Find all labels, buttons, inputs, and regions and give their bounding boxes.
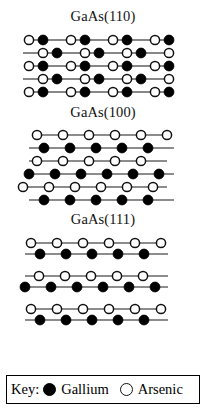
arsenic-atom — [108, 61, 117, 70]
gallium-atom — [117, 195, 127, 205]
lattice-row — [13, 33, 193, 47]
gallium-atom — [52, 48, 62, 58]
gallium-atom — [164, 35, 174, 45]
gallium-atom — [91, 143, 101, 153]
gallium-atom — [35, 249, 45, 259]
lattice-row — [13, 247, 193, 261]
lattice-row — [13, 141, 193, 155]
gallium-atom — [150, 282, 160, 292]
gallium-atom — [91, 195, 101, 205]
arsenic-atom — [110, 156, 119, 165]
arsenic-atom — [66, 61, 75, 70]
arsenic-atom — [96, 182, 105, 191]
gallium-atom — [136, 48, 146, 58]
arsenic-atom — [122, 74, 131, 83]
panel-gaas-100: GaAs(100) — [0, 105, 206, 208]
arsenic-atom — [136, 130, 145, 139]
panel-gaas-110: GaAs(110) — [0, 9, 206, 99]
lattice-row — [13, 167, 193, 181]
gallium-atom — [38, 61, 48, 71]
gallium-atom — [94, 48, 104, 58]
gallium-atom — [113, 249, 123, 259]
gallium-atom — [80, 87, 90, 97]
lattice-row — [13, 154, 193, 168]
legend-key-box: Key: Gallium Arsenic — [6, 375, 200, 404]
arsenic-atom — [18, 182, 27, 191]
arsenic-atom — [24, 35, 33, 44]
gallium-atom — [87, 315, 97, 325]
arsenic-atom — [150, 87, 159, 96]
gallium-atom — [122, 61, 132, 71]
gallium-atom — [94, 74, 104, 84]
gaas-surface-structures-figure: GaAs(110) GaAs(100) GaAs(111) Key: Galli… — [0, 0, 206, 411]
arsenic-atom — [24, 61, 33, 70]
lattice-111 — [13, 236, 193, 326]
gallium-atom — [102, 169, 112, 179]
gallium-atom — [113, 315, 123, 325]
arsenic-atom — [122, 182, 131, 191]
lattice-row — [13, 128, 193, 142]
arsenic-atom — [162, 130, 171, 139]
arsenic-atom — [32, 156, 41, 165]
gallium-atom — [65, 195, 75, 205]
filled-circle-icon — [43, 383, 56, 396]
legend-gallium-label: Gallium — [61, 381, 109, 398]
arsenic-atom — [148, 182, 157, 191]
gallium-atom — [117, 143, 127, 153]
lattice-row — [13, 72, 193, 86]
lattice-row — [13, 59, 193, 73]
gallium-atom — [61, 249, 71, 259]
panel-gaas-111: GaAs(111) — [0, 212, 206, 326]
arsenic-atom — [32, 130, 41, 139]
arsenic-atom — [24, 87, 33, 96]
gallium-atom — [50, 169, 60, 179]
gallium-atom — [164, 87, 174, 97]
panel-title-100: GaAs(100) — [70, 105, 135, 120]
arsenic-atom — [122, 48, 131, 57]
lattice-row — [13, 313, 193, 327]
arsenic-atom — [44, 182, 53, 191]
gallium-atom — [39, 143, 49, 153]
gallium-atom — [136, 74, 146, 84]
arsenic-atom — [70, 182, 79, 191]
lattice-row — [13, 193, 193, 207]
lattice-100 — [13, 128, 193, 207]
arsenic-atom — [108, 35, 117, 44]
gallium-atom — [61, 315, 71, 325]
gallium-atom — [80, 61, 90, 71]
lattice-row — [13, 85, 193, 99]
gallium-atom — [76, 169, 86, 179]
gallium-atom — [164, 61, 174, 71]
gallium-atom — [39, 195, 49, 205]
gallium-atom — [20, 282, 30, 292]
panel-title-110: GaAs(110) — [71, 9, 136, 24]
lattice-row — [13, 280, 193, 294]
lattice-110 — [13, 33, 193, 99]
arsenic-atom — [108, 87, 117, 96]
gallium-atom — [143, 143, 153, 153]
gallium-atom — [143, 195, 153, 205]
arsenic-atom — [84, 156, 93, 165]
gallium-atom — [124, 282, 134, 292]
lattice-row — [13, 46, 193, 60]
gallium-atom — [139, 315, 149, 325]
arsenic-atom — [38, 74, 47, 83]
arsenic-atom — [38, 48, 47, 57]
gallium-atom — [154, 169, 164, 179]
arsenic-atom — [58, 130, 67, 139]
arsenic-atom — [110, 130, 119, 139]
gallium-atom — [98, 282, 108, 292]
lattice-row — [13, 180, 193, 194]
gallium-atom — [38, 87, 48, 97]
arsenic-atom — [80, 74, 89, 83]
legend-content: Key: Gallium Arsenic — [11, 381, 195, 398]
gallium-atom — [52, 74, 62, 84]
arsenic-atom — [84, 130, 93, 139]
arsenic-atom — [80, 48, 89, 57]
gallium-atom — [87, 249, 97, 259]
gallium-atom — [128, 169, 138, 179]
arsenic-atom — [164, 48, 173, 57]
arsenic-atom — [136, 156, 145, 165]
legend-label: Key: — [11, 381, 39, 398]
gallium-atom — [80, 35, 90, 45]
